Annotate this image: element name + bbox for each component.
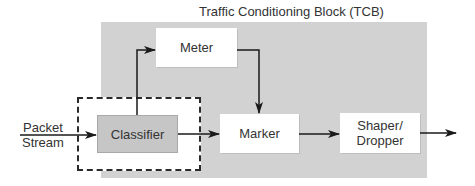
meter-to-marker-arrow	[237, 50, 259, 113]
connector-arrows	[0, 0, 475, 186]
classifier-to-meter-arrow	[137, 50, 155, 115]
